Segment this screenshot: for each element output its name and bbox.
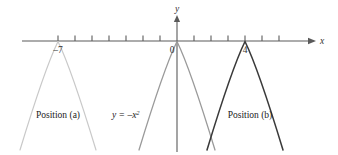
equation-label: y = –x2: [111, 109, 140, 121]
figure-container: –7 0 4 x y Position (a) y = –x2 Position…: [0, 0, 338, 155]
equation-base: y = –x: [111, 110, 137, 120]
origin-label: 0: [170, 45, 175, 55]
position-b-label: Position (b): [228, 110, 273, 121]
y-axis-label: y: [174, 4, 180, 14]
curve-position-b: [207, 42, 283, 151]
y-axis-arrow-icon: [174, 15, 180, 22]
y-axis-group: [174, 15, 180, 152]
x-axis-ticks: [58, 36, 279, 42]
x-axis-label: x: [319, 36, 325, 46]
curve-position-a: [20, 42, 96, 151]
equation-exponent: 2: [136, 109, 140, 116]
parabola-figure: –7 0 4 x y Position (a) y = –x2 Position…: [0, 0, 338, 155]
x-axis-group: [22, 38, 316, 44]
vertex-b-label: 4: [243, 45, 248, 55]
position-a-label: Position (a): [36, 110, 80, 121]
vertex-a-label: –7: [52, 45, 63, 55]
x-axis-arrow-icon: [308, 38, 316, 44]
